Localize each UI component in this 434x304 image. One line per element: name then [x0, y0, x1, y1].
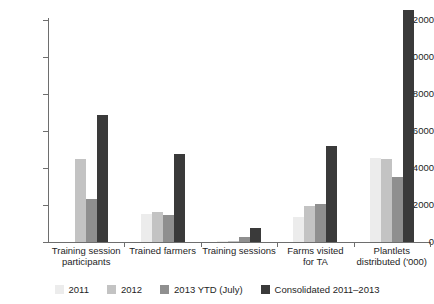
bar-5-2013-ytd-(july)	[392, 177, 403, 242]
legend-item-2013-ytd-(july)[interactable]: 2013 YTD (July)	[160, 284, 242, 295]
legend-label: 2013 YTD (July)	[174, 284, 242, 295]
category-label-line: Training session	[48, 245, 124, 256]
bar-1-2012	[75, 159, 86, 242]
legend-item-2011[interactable]: 2011	[55, 284, 89, 295]
bar-chart: 020004000600080001000012000 Training ses…	[0, 0, 434, 304]
category-label-line: Training sessions	[201, 245, 277, 256]
category-label: Training sessionparticipants	[48, 245, 124, 267]
y-axis-tick	[43, 94, 48, 95]
legend-item-2012[interactable]: 2012	[107, 284, 142, 295]
y-axis-tick-label: 12000	[394, 15, 434, 24]
legend-label: 2011	[69, 284, 89, 295]
bar-4-2013-ytd-(july)	[315, 204, 326, 242]
legend-item-consolidated-2011–2013[interactable]: Consolidated 2011–2013	[261, 284, 380, 295]
bar-4-2011	[293, 217, 304, 242]
bar-3-2011	[217, 241, 228, 242]
bar-4-consolidated-2011–2013	[326, 146, 337, 242]
category-label-line: distributed ('000)	[354, 256, 430, 267]
category-label-line: for TA	[277, 256, 353, 267]
legend-swatch-icon	[107, 285, 116, 294]
y-axis-tick	[43, 20, 48, 21]
y-axis-tick-label: 8000	[394, 89, 434, 98]
category-label-line: Farms visited	[277, 245, 353, 256]
legend-swatch-icon	[261, 285, 270, 294]
bar-1-2013-ytd-(july)	[86, 199, 97, 242]
category-label: Plantletsdistributed ('000)	[354, 245, 430, 267]
y-axis-tick	[43, 131, 48, 132]
category-label-line: Plantlets	[354, 245, 430, 256]
y-axis-tick	[43, 168, 48, 169]
bar-1-consolidated-2011–2013	[97, 115, 108, 242]
legend-label: Consolidated 2011–2013	[275, 284, 380, 295]
y-axis-tick	[43, 205, 48, 206]
x-axis-line	[48, 242, 430, 243]
y-axis-tick-label: 10000	[394, 52, 434, 61]
category-label: Trained farmers	[124, 245, 200, 256]
bar-4-2012	[304, 206, 315, 242]
y-axis-tick-label: 6000	[394, 126, 434, 135]
category-label: Training sessions	[201, 245, 277, 256]
legend-swatch-icon	[55, 285, 64, 294]
x-axis-separator	[430, 242, 431, 247]
legend-label: 2012	[121, 284, 142, 295]
category-label: Farms visitedfor TA	[277, 245, 353, 267]
y-axis-tick	[43, 242, 48, 243]
category-label-line: Trained farmers	[124, 245, 200, 256]
chart-legend: 201120122013 YTD (July)Consolidated 2011…	[0, 279, 434, 299]
legend-swatch-icon	[160, 285, 169, 294]
y-axis-tick-label: 4000	[394, 163, 434, 172]
y-axis-tick	[43, 57, 48, 58]
bar-3-consolidated-2011–2013	[250, 228, 261, 242]
category-label-line: participants	[48, 256, 124, 267]
bar-3-2012	[228, 241, 239, 242]
bar-3-2013-ytd-(july)	[239, 237, 250, 242]
bar-5-2011	[370, 158, 381, 242]
bar-2-2011	[141, 214, 152, 242]
bar-5-consolidated-2011–2013	[403, 10, 414, 242]
bar-2-2012	[152, 212, 163, 242]
bar-5-2012	[381, 159, 392, 242]
bar-2-consolidated-2011–2013	[174, 154, 185, 242]
bar-2-2013-ytd-(july)	[163, 215, 174, 242]
y-axis-line	[48, 18, 49, 243]
